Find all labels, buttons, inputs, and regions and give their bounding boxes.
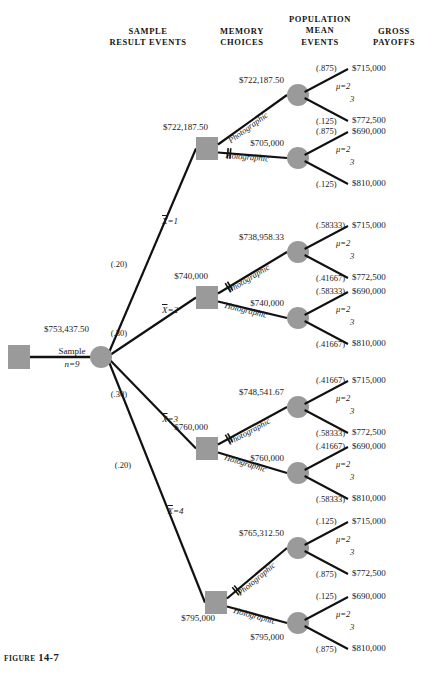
chance-value-xbar-4-holographic: $795,000	[250, 632, 284, 642]
decision-value-xbar-1: $722,187.50	[163, 122, 208, 132]
root-decision-node	[8, 345, 30, 369]
branch-prob-xbar-1: (.20)	[111, 259, 127, 269]
header-line: SAMPLE	[88, 26, 208, 37]
payoff-prob-top-xbar-3-photographic: (.41667)	[316, 375, 345, 385]
chance-node-xbar-2-photographic	[287, 241, 309, 263]
decision-value-xbar-4: $795,000	[181, 613, 215, 623]
chance-value-xbar-2-photographic: $738,958.33	[239, 232, 284, 242]
mu-bottom-xbar-3-holographic: 3	[350, 472, 354, 482]
mu-top-xbar-2-holographic: μ=2	[336, 304, 350, 314]
payoff-prob-bottom-xbar-2-holographic: (.41667)	[316, 339, 345, 349]
payoff-prob-bottom-xbar-1-photographic: (.125)	[316, 116, 337, 126]
header-line: GROSS	[356, 26, 432, 37]
header-line: POPULATION	[274, 14, 366, 25]
mu-bottom-xbar-4-photographic: 3	[350, 547, 354, 557]
payoff-prob-bottom-xbar-4-holographic: (.875)	[316, 644, 337, 654]
header-sample-result-events: SAMPLE RESULT EVENTS	[88, 26, 208, 49]
chance-value-xbar-4-photographic: $765,312.50	[239, 528, 284, 538]
branch-prob-xbar-4: (.20)	[115, 460, 131, 470]
decision-value-xbar-3: $760,000	[174, 422, 208, 432]
figure-number: 14-7	[38, 652, 59, 663]
payoff-prob-top-xbar-2-photographic: (.58333)	[316, 220, 345, 230]
root-value: $753,437.50	[44, 324, 89, 334]
root-sample-size: n=9	[59, 358, 86, 371]
chance-node-xbar-3-holographic	[287, 462, 309, 484]
figure-prefix: FIGURE	[4, 654, 36, 663]
payoff-prob-bottom-xbar-1-holographic: (.125)	[316, 179, 337, 189]
payoff-prob-top-xbar-1-holographic: (.875)	[316, 126, 337, 136]
payoff-prob-bottom-xbar-3-holographic: (.58333)	[316, 494, 345, 504]
chance-node-xbar-3-photographic	[287, 396, 309, 418]
payoff-top-xbar-4-photographic: $715,000	[352, 516, 386, 526]
payoff-bottom-xbar-4-photographic: $772,500	[352, 568, 386, 578]
payoff-prob-bottom-xbar-2-photographic: (.41667)	[316, 273, 345, 283]
mu-bottom-xbar-2-holographic: 3	[350, 317, 354, 327]
root-chance-node	[90, 346, 112, 368]
payoff-prob-top-xbar-4-photographic: (.125)	[316, 516, 337, 526]
payoff-top-xbar-2-holographic: $690,000	[352, 286, 386, 296]
mu-bottom-xbar-1-photographic: 3	[350, 94, 354, 104]
payoff-top-xbar-2-photographic: $715,000	[352, 220, 386, 230]
chance-value-xbar-2-holographic: $740,000	[250, 298, 284, 308]
payoff-prob-top-xbar-1-photographic: (.875)	[316, 63, 337, 73]
chance-node-xbar-4-holographic	[287, 612, 309, 634]
header-gross-payoffs: GROSS PAYOFFS	[356, 26, 432, 49]
payoff-bottom-xbar-4-holographic: $810,000	[352, 643, 386, 653]
chance-value-xbar-3-photographic: $748,541.67	[239, 387, 284, 397]
sample-branch-xbar-3	[107, 357, 196, 449]
mu-bottom-xbar-4-holographic: 3	[350, 622, 354, 632]
mu-top-xbar-1-holographic: μ=2	[336, 144, 350, 154]
decision-node-xbar-4	[205, 591, 227, 614]
header-line: RESULT EVENTS	[88, 37, 208, 48]
sample-branch-xbar-1	[107, 149, 196, 358]
payoff-bottom-xbar-3-holographic: $810,000	[352, 493, 386, 503]
chance-value-xbar-3-holographic: $760,000	[250, 453, 284, 463]
chance-node-xbar-1-photographic	[287, 84, 309, 106]
chance-value-xbar-1-photographic: $722,187.50	[239, 75, 284, 85]
branch-prob-xbar-2: (.30)	[111, 328, 127, 338]
mu-top-xbar-3-holographic: μ=2	[336, 459, 350, 469]
payoff-top-xbar-1-photographic: $715,000	[352, 63, 386, 73]
chance-node-xbar-4-photographic	[287, 537, 309, 559]
payoff-prob-top-xbar-2-holographic: (.58333)	[316, 286, 345, 296]
decision-node-xbar-2	[196, 286, 218, 309]
branch-event-xbar-2: X=2	[162, 305, 178, 315]
header-line: MEAN	[274, 25, 366, 36]
header-line: EVENTS	[274, 37, 366, 48]
mu-top-xbar-4-holographic: μ=2	[336, 609, 350, 619]
payoff-prob-top-xbar-4-holographic: (.125)	[316, 591, 337, 601]
chance-node-xbar-1-holographic	[287, 147, 309, 169]
payoff-bottom-xbar-1-photographic: $772,500	[352, 115, 386, 125]
mu-bottom-xbar-2-photographic: 3	[350, 251, 354, 261]
branch-event-xbar-1: X=1	[162, 216, 178, 226]
mu-top-xbar-3-photographic: μ=2	[336, 393, 350, 403]
payoff-bottom-xbar-2-holographic: $810,000	[352, 338, 386, 348]
payoff-top-xbar-1-holographic: $690,000	[352, 126, 386, 136]
figure-caption: FIGURE 14-7	[4, 652, 59, 663]
chance-value-xbar-1-holographic: $705,000	[250, 138, 284, 148]
header-line: PAYOFFS	[356, 37, 432, 48]
mu-bottom-xbar-1-holographic: 3	[350, 157, 354, 167]
branch-event-xbar-4: X=4	[167, 506, 183, 516]
payoff-top-xbar-3-photographic: $715,000	[352, 375, 386, 385]
payoff-prob-bottom-xbar-3-photographic: (.58333)	[316, 428, 345, 438]
payoff-bottom-xbar-3-photographic: $772,500	[352, 427, 386, 437]
decision-node-xbar-3	[196, 437, 218, 460]
mu-top-xbar-1-photographic: μ=2	[336, 81, 350, 91]
payoff-top-xbar-3-holographic: $690,000	[352, 441, 386, 451]
mu-bottom-xbar-3-photographic: 3	[350, 406, 354, 416]
branch-prob-xbar-3: (.30)	[111, 389, 127, 399]
chance-node-xbar-2-holographic	[287, 307, 309, 329]
payoff-bottom-xbar-2-photographic: $772,500	[352, 272, 386, 282]
header-population-mean-events: POPULATION MEAN EVENTS	[274, 14, 366, 48]
root-action-block: Sample n=9	[59, 345, 86, 371]
root-action-label: Sample	[59, 345, 86, 358]
decision-node-xbar-1	[196, 137, 218, 160]
payoff-top-xbar-4-holographic: $690,000	[352, 591, 386, 601]
payoff-bottom-xbar-1-holographic: $810,000	[352, 178, 386, 188]
decision-value-xbar-2: $740,000	[174, 271, 208, 281]
payoff-prob-top-xbar-3-holographic: (.41667)	[316, 441, 345, 451]
mu-top-xbar-2-photographic: μ=2	[336, 238, 350, 248]
payoff-prob-bottom-xbar-4-photographic: (.875)	[316, 569, 337, 579]
mu-top-xbar-4-photographic: μ=2	[336, 534, 350, 544]
